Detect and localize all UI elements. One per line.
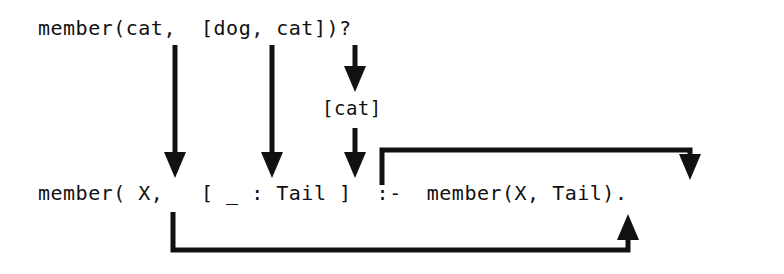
arrow-cat-to-x-icon	[164, 45, 186, 178]
arrow-list-to-pattern-icon	[261, 45, 283, 178]
arrow-layer	[0, 0, 784, 274]
arrow-tail-binding-lower-icon	[344, 128, 366, 178]
arrow-tail-to-recursive-call-icon	[382, 150, 701, 185]
arrow-tail-binding-upper-icon	[344, 45, 366, 92]
arrow-x-to-recursive-call-icon	[173, 212, 639, 250]
prolog-unification-diagram: member(cat, [dog, cat])? [cat] member( X…	[0, 0, 784, 274]
